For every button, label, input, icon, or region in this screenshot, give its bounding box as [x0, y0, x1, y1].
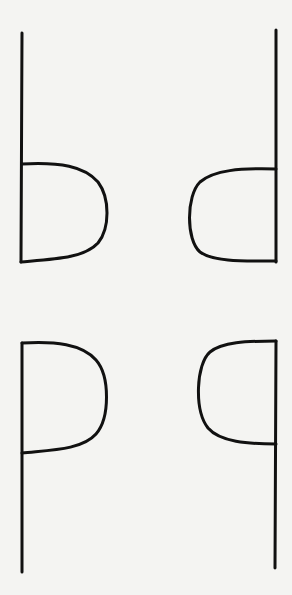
diagram-canvas [0, 0, 292, 595]
glyph-b [21, 33, 107, 262]
glyph-p [22, 342, 107, 572]
glyph-d [190, 30, 277, 262]
letters-diagram [0, 0, 292, 595]
glyph-q [198, 341, 276, 568]
